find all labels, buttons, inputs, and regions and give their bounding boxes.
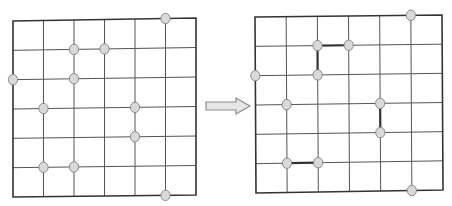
graph-node	[130, 132, 139, 142]
graph-node	[282, 99, 291, 109]
graph-node	[407, 185, 416, 195]
graph-node	[69, 44, 78, 54]
graph-node	[313, 40, 322, 50]
graph-node	[69, 162, 78, 172]
graph-node	[406, 10, 415, 20]
graph-node	[376, 127, 385, 137]
graph-node	[69, 74, 78, 84]
graph-node	[376, 98, 385, 108]
arrow-shape	[206, 98, 250, 114]
diagram-canvas	[0, 0, 452, 206]
graph-node	[344, 40, 353, 50]
left-grid-before	[8, 13, 196, 200]
graph-node	[313, 70, 322, 80]
graph-node	[39, 162, 48, 172]
right-grid-after	[251, 10, 443, 196]
graph-node	[39, 103, 48, 113]
right-arrow-icon	[206, 98, 250, 114]
graph-node	[282, 158, 291, 168]
graph-node	[251, 70, 260, 80]
graph-node	[161, 190, 170, 200]
graph-node	[100, 44, 109, 54]
graph-node	[314, 158, 323, 168]
graph-node	[161, 13, 170, 23]
graph-node	[8, 74, 17, 84]
graph-node	[130, 102, 139, 112]
